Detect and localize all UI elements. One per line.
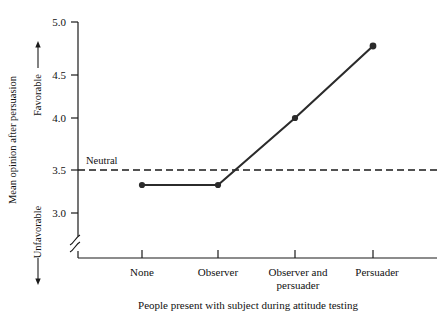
neutral-reference-label: Neutral	[86, 155, 118, 166]
data-point-persuader	[370, 43, 377, 50]
arrow-down-icon	[35, 258, 40, 285]
x-label-observer: Observer	[198, 266, 239, 278]
y-tick-label-4.5: 4.5	[52, 69, 66, 81]
axis-break-icon	[70, 235, 80, 252]
x-label-none: None	[130, 266, 154, 278]
x-axis-title: People present with subject during attit…	[138, 299, 358, 311]
x-label-observer-and-persuader-line1: Observer and	[269, 266, 328, 278]
line-chart: Mean opinion after persuasion Favorable …	[0, 0, 448, 319]
data-point-observer	[215, 182, 221, 188]
unfavorable-label: Unfavorable	[32, 205, 43, 258]
data-point-none	[139, 182, 145, 188]
x-label-observer-and-persuader-line2: persuader	[277, 279, 320, 291]
data-series-line	[142, 46, 373, 185]
arrow-up-icon	[35, 41, 40, 68]
x-axis-category-labels: None Observer Observer and persuader Per…	[130, 266, 399, 291]
x-axis-ticks	[142, 250, 373, 258]
y-tick-label-3.5: 3.5	[52, 164, 66, 176]
y-axis-ticks: 5.0 4.5 4.0 3.5 3.0	[52, 16, 78, 219]
chart-figure: Mean opinion after persuasion Favorable …	[0, 0, 448, 319]
y-tick-label-5.0: 5.0	[52, 16, 66, 28]
data-point-markers	[139, 43, 377, 189]
favorable-label: Favorable	[32, 74, 43, 116]
y-tick-label-3.0: 3.0	[52, 207, 66, 219]
y-axis-title: Mean opinion after persuasion	[7, 75, 18, 204]
y-direction-anchors: Favorable Unfavorable	[32, 41, 43, 285]
data-point-observer-and-persuader	[292, 115, 298, 121]
x-label-persuader: Persuader	[355, 266, 399, 278]
y-tick-label-4.0: 4.0	[52, 112, 66, 124]
